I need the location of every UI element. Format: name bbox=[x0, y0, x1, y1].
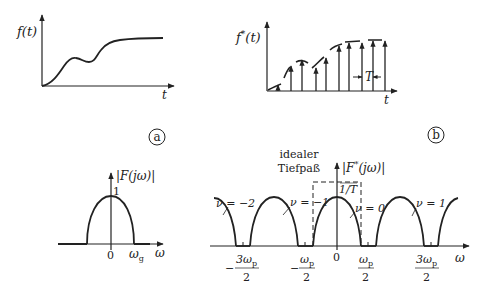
x-axis-label: ω bbox=[155, 246, 165, 260]
sampled-signal-plot: T f*(t) t bbox=[235, 22, 397, 107]
tick-3wp-2: 3ωp 2 bbox=[415, 253, 439, 284]
badge-a: a bbox=[149, 129, 165, 145]
svg-text:2: 2 bbox=[243, 271, 250, 284]
tick-omega-g: ωg bbox=[129, 247, 144, 263]
badge-b: b bbox=[428, 127, 444, 143]
tick-minus-3wp-2: − 3ωp 2 bbox=[225, 253, 259, 284]
nu-label-minus1: ν = −1 bbox=[290, 196, 329, 209]
filter-label-line2: Tiefpaß bbox=[278, 162, 320, 175]
peak-label: 1/T bbox=[339, 183, 359, 196]
tick-zero: 0 bbox=[333, 251, 340, 264]
x-axis-label: ω bbox=[455, 251, 465, 265]
badge-b-label: b bbox=[432, 128, 440, 142]
y-axis-label: f*(t) bbox=[235, 29, 261, 45]
tick-zero: 0 bbox=[107, 249, 114, 262]
continuous-spectrum-plot: |F(jω)| 1 0 ωg ω bbox=[58, 169, 165, 263]
svg-text:ωp: ωp bbox=[359, 253, 373, 268]
svg-text:−: − bbox=[225, 262, 234, 275]
svg-text:−: − bbox=[290, 262, 299, 275]
sampling-diagram: f(t) t a T f*(t) t bbox=[0, 0, 486, 296]
y-axis-label: |F*(jω)| bbox=[342, 160, 385, 175]
x-axis-label: t bbox=[162, 88, 167, 102]
sampled-spectrum-plot: idealer Tiefpaß |F*(jω)| 1/T ν = −2 ν = … bbox=[210, 148, 469, 284]
peak-label: 1 bbox=[113, 185, 120, 198]
signal-curve bbox=[42, 38, 163, 86]
continuous-signal-plot: f(t) t bbox=[16, 15, 174, 102]
svg-text:ωp: ωp bbox=[300, 253, 314, 268]
tick-wp-2: ωp 2 bbox=[358, 253, 374, 284]
svg-text:2: 2 bbox=[362, 271, 369, 284]
tick-minus-wp-2: − ωp 2 bbox=[290, 253, 315, 284]
filter-label-line1: idealer bbox=[280, 148, 320, 161]
y-axis-label: f(t) bbox=[16, 24, 37, 39]
svg-text:0: 0 bbox=[333, 251, 340, 264]
svg-text:2: 2 bbox=[423, 271, 430, 284]
period-label: T bbox=[365, 70, 374, 84]
svg-text:3ωp: 3ωp bbox=[416, 253, 437, 268]
svg-text:3ωp: 3ωp bbox=[236, 253, 257, 268]
badge-a-label: a bbox=[153, 130, 160, 144]
x-axis-label: t bbox=[384, 93, 389, 107]
y-axis-label: |F(jω)| bbox=[116, 169, 155, 183]
svg-text:2: 2 bbox=[303, 271, 310, 284]
nu-label-minus2: ν = −2 bbox=[216, 197, 255, 210]
nu-label-0: ν = 0 bbox=[355, 202, 385, 215]
nu-label-1: ν = 1 bbox=[416, 197, 446, 210]
